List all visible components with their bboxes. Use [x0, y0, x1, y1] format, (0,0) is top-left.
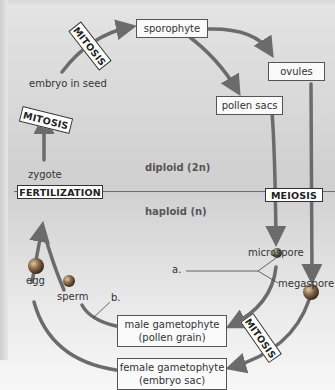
- blank-label-a: a.: [172, 264, 181, 276]
- zygote-label: zygote: [28, 169, 62, 181]
- meiosis-label: MEIOSIS: [271, 190, 317, 201]
- sporophyte-box: sporophyte: [136, 19, 208, 38]
- sperm-ball: [63, 275, 75, 287]
- sporophyte-label: sporophyte: [144, 22, 200, 35]
- ovules-label: ovules: [280, 65, 313, 78]
- fertilization-label: FERTILIZATION: [19, 187, 101, 198]
- egg-ball: [28, 258, 44, 274]
- male-gametophyte-line1: male gametophyte: [124, 318, 219, 331]
- egg-label: egg: [26, 275, 45, 287]
- female-gametophyte-line1: female gametophyte: [120, 361, 225, 374]
- ovules-box: ovules: [268, 62, 325, 81]
- microspore-label: microspore: [248, 247, 304, 259]
- female-gametophyte-box: female gametophyte (embryo sac): [117, 358, 227, 390]
- pollen-sacs-label: pollen sacs: [222, 99, 278, 112]
- sperm-label: sperm: [57, 291, 88, 303]
- blank-label-b: b.: [111, 292, 121, 304]
- life-cycle-diagram: diploid (2n) haploid (n) sporophyte ovul…: [0, 0, 335, 390]
- fertilization-process: FERTILIZATION: [17, 185, 103, 199]
- male-gametophyte-line2: (pollen grain): [138, 331, 205, 344]
- embryo-in-seed-label: embryo in seed: [29, 78, 107, 90]
- haploid-label: haploid (n): [145, 206, 207, 217]
- meiosis-process: MEIOSIS: [265, 188, 323, 202]
- diploid-label: diploid (2n): [145, 162, 210, 173]
- male-gametophyte-box: male gametophyte (pollen grain): [117, 315, 227, 347]
- female-gametophyte-line2: (embryo sac): [139, 374, 205, 387]
- pollen-sacs-box: pollen sacs: [216, 96, 283, 115]
- megaspore-label: megaspore: [278, 278, 334, 290]
